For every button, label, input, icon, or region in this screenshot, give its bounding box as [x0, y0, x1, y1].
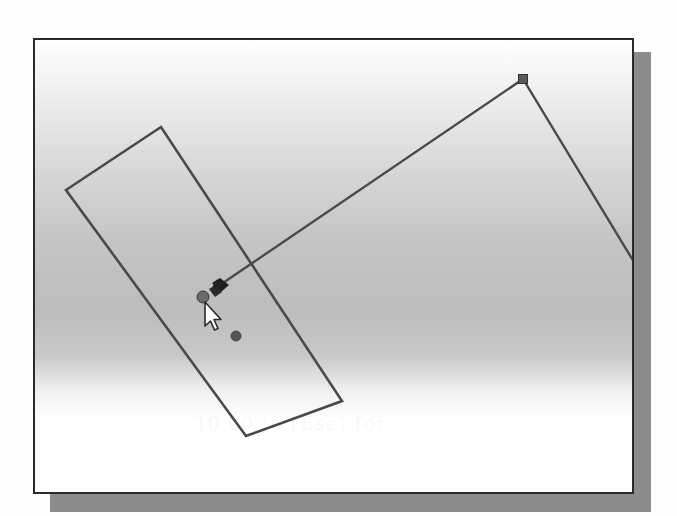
page: 10.00 in [Esc] for — [0, 0, 677, 516]
sketch-viewport[interactable] — [33, 38, 634, 494]
sketch-canvas[interactable] — [35, 40, 632, 492]
endpoint-marker-icon[interactable] — [197, 291, 209, 303]
sketch-line[interactable] — [220, 79, 632, 285]
sketch-point-icon[interactable] — [231, 331, 241, 341]
vertex-marker-icon[interactable] — [519, 75, 528, 84]
rotated-rectangle[interactable] — [66, 127, 342, 436]
arrow-pointer-icon — [205, 302, 221, 330]
